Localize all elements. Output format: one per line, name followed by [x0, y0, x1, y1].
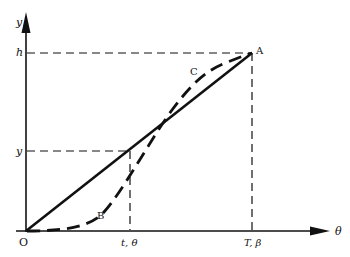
t-tick-label: t, θ — [121, 237, 137, 248]
h-tick-label: h — [16, 46, 23, 59]
straight-line-OA — [26, 53, 252, 231]
T-tick-label: T, β — [244, 237, 262, 248]
origin-label: O — [19, 236, 28, 249]
x-axis-arrow-icon — [310, 227, 330, 236]
point-C-label: C — [190, 66, 198, 77]
point-B-label: B — [97, 210, 104, 221]
x-axis-label: θ — [335, 225, 342, 238]
y-tick-label: y — [15, 145, 23, 158]
y-axis-label: y — [15, 16, 23, 29]
point-A-label: A — [255, 45, 264, 56]
diagram-canvas: y θ h y O t, θ T, β A B C — [0, 0, 350, 257]
y-axis-arrow-icon — [22, 12, 31, 33]
